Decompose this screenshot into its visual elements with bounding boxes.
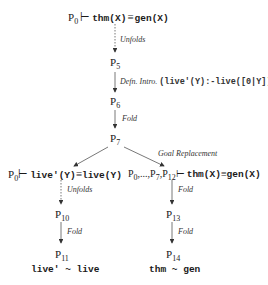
- result-right: thm ~ gen: [149, 264, 200, 275]
- edge-label-unfolds-top: Unfolds: [120, 35, 145, 44]
- p-label: ,P: [160, 168, 168, 179]
- edge-label-fold-p6: Fold: [122, 114, 137, 123]
- p-subscript: 7: [116, 138, 120, 147]
- node-p14: P14: [166, 248, 180, 260]
- p-subscript: 0: [74, 17, 78, 26]
- edge-label-defn-intro: Defn. Intro. (live'(Y):-live([0|Y])).: [120, 77, 268, 87]
- node-root: P0⊢thm(X)≡gen(X): [68, 11, 169, 25]
- defn-clause: (live'(Y):-live([0|Y])).: [159, 77, 268, 87]
- node-p11: P11: [55, 248, 69, 260]
- node-p13: P13: [166, 208, 180, 220]
- p-subscript: 11: [61, 254, 69, 263]
- node-p7: P7: [110, 132, 120, 144]
- equiv-symbol: ≡: [127, 11, 133, 23]
- edge-label-unfolds-left: Unfolds: [67, 185, 92, 194]
- node-right-goal: P0,...,P7,P12⊢thm(X)≡gen(X): [128, 168, 261, 181]
- defn-intro-label: Defn. Intro.: [120, 77, 157, 86]
- rhs-term: gen(X): [227, 169, 261, 180]
- p-subscript: 12: [168, 173, 176, 182]
- edge-label-fold-right: Fold: [178, 185, 193, 194]
- node-p5: P5: [110, 56, 120, 68]
- p-subscript: 14: [172, 254, 180, 263]
- p-subscript: 6: [116, 101, 120, 110]
- edge-label-fold-p10: Fold: [67, 227, 82, 236]
- edge-p7-left: [74, 147, 108, 166]
- p-subscript: 5: [116, 62, 120, 71]
- lhs-term: thm(X): [92, 13, 126, 24]
- node-p10: P10: [55, 208, 69, 220]
- ellipsis: ,...,P: [138, 168, 156, 179]
- turnstile-symbol: ⊢: [176, 168, 185, 179]
- lhs-term: thm(X): [187, 169, 221, 180]
- p-subscript: 10: [61, 214, 69, 223]
- lhs-term: live'(Y): [30, 170, 76, 181]
- node-left-goal: P0⊢live'(Y)≡live(Y): [8, 168, 122, 182]
- turnstile-symbol: ⊢: [80, 11, 90, 23]
- turnstile-symbol: ⊢: [18, 168, 28, 180]
- rhs-term: gen(X): [135, 13, 169, 24]
- p-subscript: 13: [172, 214, 180, 223]
- node-p6: P6: [110, 95, 120, 107]
- edge-label-goal-replacement: Goal Replacement: [158, 149, 217, 158]
- result-left: live' ~ live: [31, 264, 99, 275]
- rhs-term: live(Y): [82, 170, 122, 181]
- edge-label-fold-p13: Fold: [178, 227, 193, 236]
